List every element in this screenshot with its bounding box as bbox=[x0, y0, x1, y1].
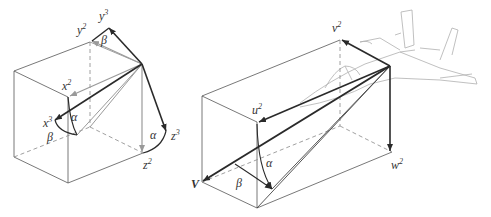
y3-axis-arrow bbox=[109, 28, 142, 64]
left-frame-diagram: y3 y2 x2 x3 z2 z3 β β α α bbox=[14, 8, 180, 183]
label-z2: z2 bbox=[142, 157, 152, 172]
label-y2: y2 bbox=[76, 22, 86, 37]
label-x3: x3 bbox=[42, 115, 52, 130]
left-diagonal-gray bbox=[90, 64, 142, 127]
right-frame-diagram: v2 u2 w2 V α β bbox=[191, 10, 477, 208]
label-alpha-left: α bbox=[71, 110, 78, 124]
label-v2: v2 bbox=[332, 20, 341, 35]
right-diagonal-to-corner bbox=[257, 66, 390, 208]
label-alpha: α bbox=[266, 156, 273, 170]
label-u2: u2 bbox=[252, 102, 262, 117]
y2-axis-arrow bbox=[92, 41, 142, 64]
label-velocity: V bbox=[191, 177, 200, 191]
coordinate-frames-diagram: y3 y2 x2 x3 z2 z3 β β α α bbox=[0, 0, 491, 217]
label-beta-top: β bbox=[100, 33, 107, 47]
label-beta: β bbox=[235, 176, 242, 190]
right-hidden-edges bbox=[202, 40, 392, 182]
v2-axis-arrow bbox=[342, 40, 390, 66]
label-z3: z3 bbox=[170, 128, 180, 143]
label-w2: w2 bbox=[391, 157, 403, 172]
label-alpha-right: α bbox=[150, 128, 157, 142]
label-y3: y3 bbox=[98, 8, 108, 23]
label-beta-bottom: β bbox=[46, 130, 53, 144]
u2-axis-arrow bbox=[259, 66, 390, 122]
left-box bbox=[14, 42, 143, 183]
x2-axis-arrow bbox=[70, 64, 142, 96]
z3-axis-arrow bbox=[142, 64, 166, 131]
left-hidden-edges bbox=[14, 42, 143, 157]
label-x2: x2 bbox=[61, 78, 71, 93]
